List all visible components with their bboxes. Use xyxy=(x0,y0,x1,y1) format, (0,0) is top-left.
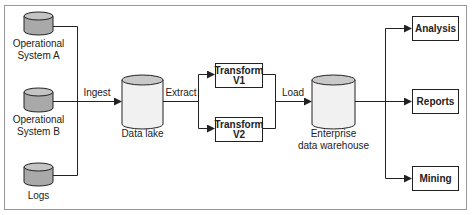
transform-v2-line2: V2 xyxy=(233,129,246,140)
warehouse-label-line2: data warehouse xyxy=(298,140,370,151)
etl-diagram: Operational System A Operational System … xyxy=(0,0,472,215)
analysis-label: Analysis xyxy=(415,23,457,34)
source-label-logs: Logs xyxy=(28,190,50,201)
extract-label: Extract xyxy=(165,87,196,98)
source-cylinder-operational-system-a xyxy=(24,12,53,35)
load-label: Load xyxy=(282,87,304,98)
source-label-b-line1: Operational xyxy=(13,114,65,125)
source-label-b-line2: System B xyxy=(17,126,60,137)
data-lake-cylinder xyxy=(122,75,163,129)
transform-v1-line2: V1 xyxy=(233,75,246,86)
source-label-a-line1: Operational xyxy=(13,38,65,49)
data-lake-label: Data lake xyxy=(121,128,164,139)
source-cylinder-logs xyxy=(24,163,53,186)
data-warehouse-cylinder xyxy=(312,75,355,129)
reports-label: Reports xyxy=(417,96,455,107)
source-cylinder-operational-system-b xyxy=(24,88,53,112)
ingest-label: Ingest xyxy=(83,87,110,98)
warehouse-label-line1: Enterprise xyxy=(311,128,357,139)
source-label-a-line2: System A xyxy=(17,50,60,61)
mining-label: Mining xyxy=(419,173,451,184)
